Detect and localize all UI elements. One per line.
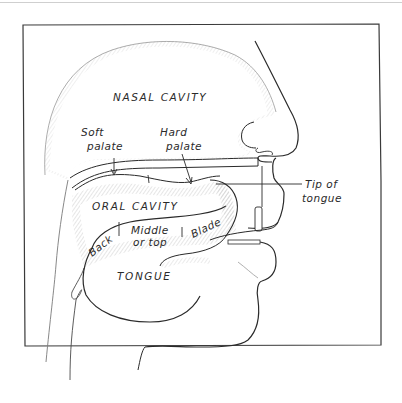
label-hard-palate-line2: palate <box>165 140 202 152</box>
pharynx-wall <box>46 180 68 362</box>
label-nasal-cavity: NASAL CAVITY <box>113 91 207 103</box>
upper-lip-outline <box>248 158 284 228</box>
label-tongue: TONGUE <box>117 270 172 282</box>
label-soft-palate-line2: palate <box>86 140 123 152</box>
label-middle-line1: Middle <box>131 224 169 236</box>
label-hard-palate-line1: Hard <box>160 126 187 138</box>
label-oral-cavity: ORAL CAVITY <box>92 200 179 212</box>
vocal-tract-diagram: NASAL CAVITY Soft palate Hard palate ORA… <box>0 0 402 403</box>
palate <box>70 158 258 190</box>
lip-crease <box>238 262 258 278</box>
label-middle-line2: or top <box>133 236 167 248</box>
soft-palate-arrow <box>111 158 117 175</box>
lower-incisor <box>228 240 260 244</box>
upper-incisor <box>255 207 262 231</box>
label-tip-of-tongue-line2: tongue <box>302 192 342 204</box>
label-soft-palate-line1: Soft <box>81 126 104 138</box>
nasal-floor <box>256 148 273 155</box>
label-tip-of-tongue-line1: Tip of <box>305 178 339 190</box>
nasal-cavity-region <box>45 41 276 180</box>
pharynx-inner <box>70 268 84 380</box>
jaw-line <box>138 347 145 370</box>
lower-lip-chin-outline <box>145 242 276 347</box>
